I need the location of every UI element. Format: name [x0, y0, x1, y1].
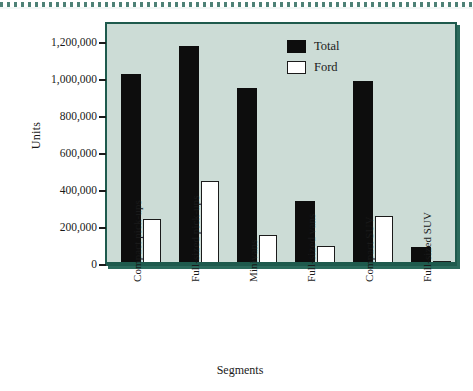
- chart-legend: Total Ford: [287, 38, 397, 80]
- bar-ford: [259, 235, 277, 264]
- bar-ford: [375, 216, 393, 264]
- y-tick-label: 400,000: [60, 183, 97, 197]
- x-tick-label: Compact SUV: [361, 268, 373, 282]
- legend-swatch-ford-icon: [287, 61, 306, 74]
- bar-group: [223, 24, 281, 264]
- y-tick-label: 0: [91, 257, 97, 271]
- y-tick-mark: [99, 116, 106, 118]
- y-tick-mark: [99, 264, 106, 266]
- x-tick-label: Full-sized pick-ups: [187, 268, 199, 282]
- bar-ford: [143, 219, 161, 264]
- y-tick-mark: [99, 153, 106, 155]
- y-tick-mark: [99, 79, 106, 81]
- y-tick-label: 200,000: [60, 220, 97, 234]
- bars-container: [107, 24, 455, 264]
- y-tick-label: 1,000,000: [51, 72, 97, 86]
- x-axis-title: Segments: [180, 363, 300, 378]
- y-axis-title: Units: [29, 106, 44, 166]
- x-axis-tick-labels: Compact pick-upsFull-sized pick-upsMiniv…: [105, 268, 457, 363]
- x-tick-label: Minivans: [245, 268, 257, 282]
- y-tick-mark: [99, 190, 106, 192]
- legend-item-ford: Ford: [287, 59, 397, 76]
- legend-label-ford: Ford: [314, 61, 338, 74]
- legend-label-total: Total: [314, 40, 340, 53]
- y-tick-mark: [99, 227, 106, 229]
- legend-swatch-total-icon: [287, 40, 306, 53]
- bar-total: [237, 88, 257, 264]
- x-axis-baseline: [107, 262, 455, 264]
- y-tick-label: 600,000: [60, 146, 97, 160]
- bar-chart-figure: 0200,000400,000600,000800,0001,000,0001,…: [0, 0, 473, 391]
- y-tick-mark: [99, 42, 106, 44]
- x-tick-label: Full-sized vans: [303, 268, 315, 282]
- x-tick-label: Compact pick-ups: [129, 268, 141, 282]
- y-tick-label: 1,200,000: [51, 35, 97, 49]
- y-axis: 0200,000400,000600,000800,0001,000,0001,…: [0, 0, 105, 391]
- y-tick-label: 800,000: [60, 109, 97, 123]
- x-tick-label: Full-sized SUV: [419, 268, 431, 282]
- legend-item-total: Total: [287, 38, 397, 55]
- bar-ford: [201, 181, 219, 264]
